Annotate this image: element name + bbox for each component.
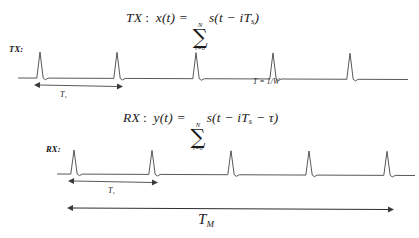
tm-symbol: T (198, 211, 207, 227)
tm-subscript: M (207, 219, 215, 229)
ts-tx-subscript: s (65, 94, 67, 99)
signal-timing-figure: TX: x(t) = N ∑ i=0 s(t − iTs) RX: y(t) =… (0, 0, 419, 238)
ts-rx-subscript: s (113, 190, 115, 195)
ts-rx-measure-arrow (74, 181, 152, 183)
pulse-width-label: T = 1/W (253, 77, 280, 86)
rx-waveform (57, 150, 415, 177)
waveform-canvas (0, 0, 419, 238)
tm-label: TM (198, 211, 214, 229)
tm-measure-arrow (73, 208, 388, 210)
ts-tx-label: Ts (60, 90, 67, 99)
tx-waveform (18, 52, 408, 81)
ts-tx-measure-arrow (40, 85, 117, 87)
ts-rx-label: Ts (108, 186, 115, 195)
